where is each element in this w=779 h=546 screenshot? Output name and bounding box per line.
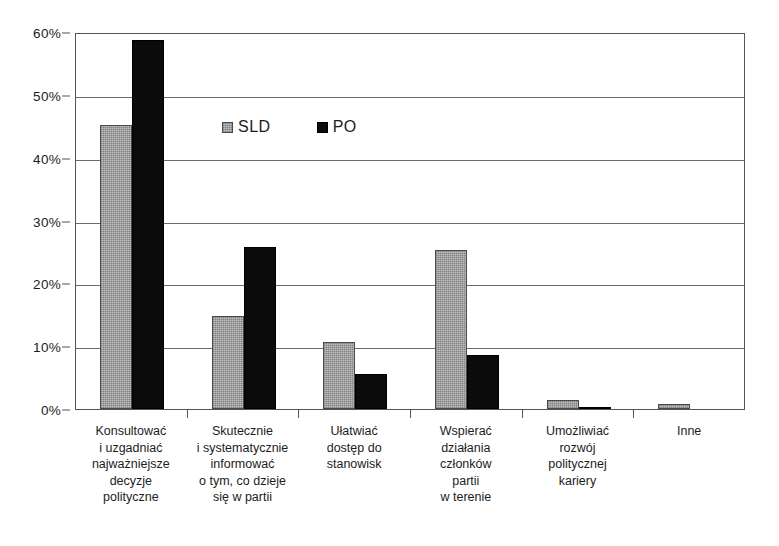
- x-category-label: Ułatwiać dostęp do stanowisk: [292, 423, 416, 473]
- bar-sld-0: [100, 125, 132, 409]
- x-tick-mark: [633, 410, 634, 418]
- gridline: [76, 285, 744, 286]
- y-tick-mark: [62, 95, 70, 96]
- y-tick-label: 10%: [33, 340, 61, 355]
- bar-sld-2: [323, 342, 355, 409]
- x-category-label: Inne: [627, 423, 751, 440]
- bar-po-2: [355, 374, 387, 409]
- y-tick-label: 20%: [33, 277, 61, 292]
- y-tick-label: 40%: [33, 151, 61, 166]
- y-tick-label: 60%: [33, 26, 61, 41]
- gridline: [76, 223, 744, 224]
- x-category-label: Wspierać działania członków partii w ter…: [404, 423, 528, 506]
- y-tick-mark: [62, 284, 70, 285]
- x-axis-category-labels: Konsultować i uzgadniać najważniejsze de…: [75, 423, 745, 533]
- bar-po-1: [244, 247, 276, 409]
- bar-chart: 0%10%20%30%40%50%60% SLDPO Konsultować i…: [0, 0, 779, 546]
- y-tick-label: 30%: [33, 214, 61, 229]
- y-tick-label: 0%: [41, 403, 61, 418]
- x-category-label: Umożliwiać rozwój politycznej kariery: [516, 423, 640, 489]
- legend-entry-po: PO: [317, 118, 357, 136]
- bar-po-3: [467, 355, 499, 409]
- x-category-label: Konsultować i uzgadniać najważniejsze de…: [69, 423, 193, 506]
- bar-po-0: [132, 40, 164, 409]
- bar-po-4: [579, 407, 611, 410]
- y-tick-mark: [62, 158, 70, 159]
- y-tick-mark: [62, 221, 70, 222]
- gridline: [76, 348, 744, 349]
- y-tick-mark: [62, 347, 70, 348]
- bar-sld-4: [547, 400, 579, 409]
- x-category-label: Skutecznie i systematycznie informować o…: [181, 423, 305, 506]
- x-tick-mark: [298, 410, 299, 418]
- bar-sld-3: [435, 250, 467, 409]
- x-tick-mark: [410, 410, 411, 418]
- gridline: [76, 160, 744, 161]
- gridline: [76, 97, 744, 98]
- legend-entry-sld: SLD: [222, 118, 271, 136]
- bar-sld-5: [658, 404, 690, 409]
- y-axis: 0%10%20%30%40%50%60%: [20, 33, 70, 410]
- legend-label: SLD: [238, 118, 271, 136]
- plot-area: [75, 33, 745, 410]
- y-tick-label: 50%: [33, 88, 61, 103]
- legend-label: PO: [333, 118, 357, 136]
- gray-square-icon: [222, 122, 233, 133]
- bar-sld-1: [212, 316, 244, 409]
- x-tick-mark: [187, 410, 188, 418]
- y-tick-mark: [62, 410, 70, 411]
- y-tick-mark: [62, 33, 70, 34]
- chart-legend: SLDPO: [222, 118, 357, 136]
- black-square-icon: [317, 122, 328, 133]
- x-tick-mark: [522, 410, 523, 418]
